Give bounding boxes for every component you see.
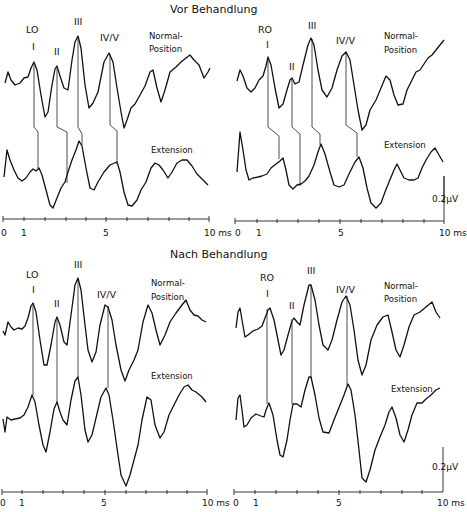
title-vor-behandlung: Vor Behandlung bbox=[170, 3, 257, 16]
normal-position-label-2: Position bbox=[384, 45, 417, 55]
peak-label-i: I bbox=[32, 284, 35, 295]
normal-position-label-1: Normal- bbox=[384, 281, 418, 291]
tick-10ms: 10 ms bbox=[437, 498, 465, 508]
side-label-ro: RO bbox=[260, 272, 274, 283]
scale-bar-label: 0.2µV bbox=[432, 194, 459, 204]
normal-position-label-1: Normal- bbox=[149, 31, 183, 41]
normal-position-label-2: Position bbox=[384, 294, 417, 304]
tick-10ms: 10 ms bbox=[439, 228, 467, 238]
extension-label: Extension bbox=[151, 371, 193, 381]
panel-vor-lo: LO I II III IV/V Normal- Position Extens… bbox=[1, 16, 232, 238]
extension-label: Extension bbox=[151, 145, 193, 155]
peak-label-iii: III bbox=[74, 259, 82, 270]
extension-label: Extension bbox=[391, 384, 433, 394]
peak-label-ii: II bbox=[54, 46, 60, 57]
panel-vor-ro: RO I II III IV/V Normal- Position Extens… bbox=[235, 20, 467, 238]
peak-label-i: I bbox=[32, 41, 35, 52]
x-axis bbox=[234, 489, 443, 495]
peak-label-iv-v: IV/V bbox=[336, 35, 356, 46]
tick-1: 1 bbox=[21, 228, 27, 238]
tick-1: 1 bbox=[256, 228, 262, 238]
panel-nach-ro: RO I II III IV/V Normal- Position Extens… bbox=[233, 265, 465, 508]
peak-label-iii: III bbox=[74, 16, 82, 27]
tick-5: 5 bbox=[338, 228, 344, 238]
peak-label-i: I bbox=[266, 39, 269, 50]
tick-5: 5 bbox=[336, 498, 342, 508]
peak-label-iv-v: IV/V bbox=[336, 284, 356, 295]
figure: Vor Behandlung Nach Behandlung LO I II I… bbox=[0, 0, 467, 512]
tick-5: 5 bbox=[103, 228, 109, 238]
side-label-lo: LO bbox=[26, 24, 38, 35]
tick-1: 1 bbox=[253, 498, 259, 508]
peak-label-iv-v: IV/V bbox=[97, 289, 117, 300]
waveform-extension bbox=[3, 377, 206, 486]
scale-bar-label: 0.2µV bbox=[432, 462, 459, 472]
tick-1: 1 bbox=[19, 498, 25, 508]
tick-10ms: 10 ms bbox=[204, 228, 232, 238]
peak-label-i: I bbox=[266, 288, 269, 299]
side-label-ro: RO bbox=[258, 24, 272, 35]
peak-label-ii: II bbox=[289, 300, 295, 311]
tick-0: 0 bbox=[233, 498, 239, 508]
peak-connector-i bbox=[34, 63, 38, 168]
peak-connector-iv-v bbox=[110, 54, 117, 164]
peak-label-ii: II bbox=[289, 61, 295, 72]
tick-10ms: 10 ms bbox=[202, 498, 230, 508]
tick-5: 5 bbox=[101, 498, 107, 508]
panel-nach-lo: LO I II III IV/V Normal- Position Extens… bbox=[0, 259, 230, 508]
tick-0: 0 bbox=[235, 228, 241, 238]
x-axis bbox=[3, 216, 209, 222]
normal-position-label-2: Position bbox=[151, 292, 184, 302]
extension-label: Extension bbox=[384, 140, 426, 150]
x-axis bbox=[2, 489, 207, 495]
peak-label-iii: III bbox=[308, 20, 316, 31]
tick-0: 0 bbox=[1, 228, 7, 238]
normal-position-label-1: Normal- bbox=[151, 278, 185, 288]
x-axis bbox=[235, 176, 444, 224]
peak-label-ii: II bbox=[54, 298, 60, 309]
normal-position-label-2: Position bbox=[149, 44, 182, 54]
normal-position-label-1: Normal- bbox=[384, 31, 418, 41]
tick-0: 0 bbox=[0, 498, 6, 508]
peak-connector-ii bbox=[292, 78, 300, 186]
peak-label-iv-v: IV/V bbox=[100, 32, 120, 43]
title-nach-behandlung: Nach Behandlung bbox=[170, 248, 267, 261]
peak-label-iii: III bbox=[307, 265, 315, 276]
peak-connector-i bbox=[268, 58, 279, 159]
side-label-lo: LO bbox=[26, 269, 38, 280]
peak-connector-ii bbox=[57, 67, 67, 183]
